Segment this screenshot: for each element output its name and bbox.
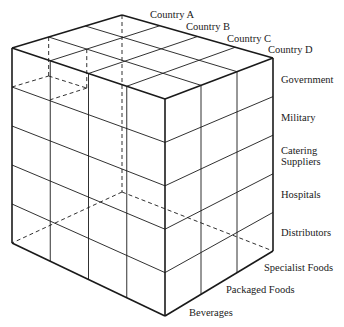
top-product-divider (85, 26, 237, 72)
label-packaged-foods: Packaged Foods (226, 284, 295, 295)
label-catering-suppliers-line1: Catering (281, 145, 317, 156)
cell-highlight-edge (12, 76, 49, 87)
label-beverages: Beverages (189, 307, 233, 318)
label-government: Government (281, 74, 334, 85)
right-customer-divider (165, 212, 273, 272)
cell-highlight-edge (49, 76, 87, 88)
right-customer-divider (165, 174, 273, 229)
hidden-back-left-bottom (12, 192, 122, 243)
right-customer-divider (165, 97, 273, 143)
label-hospitals: Hospitals (281, 189, 321, 200)
top-product-divider (49, 37, 201, 85)
hidden-edges (12, 15, 273, 251)
right-customer-divider (165, 135, 273, 186)
label-specialist-foods: Specialist Foods (264, 262, 333, 273)
grid-lines (12, 26, 273, 298)
hidden-back-right-bottom (122, 192, 273, 251)
label-country-c: Country C (227, 33, 271, 44)
label-distributors: Distributors (281, 227, 331, 238)
label-catering-suppliers-line2: Suppliers (281, 156, 321, 167)
label-country-a: Country A (150, 9, 194, 20)
label-military: Military (281, 112, 315, 123)
label-country-d: Country D (268, 44, 313, 55)
cell-highlight-edge (50, 88, 87, 100)
cube-edge (165, 58, 273, 99)
label-country-b: Country B (186, 21, 230, 32)
